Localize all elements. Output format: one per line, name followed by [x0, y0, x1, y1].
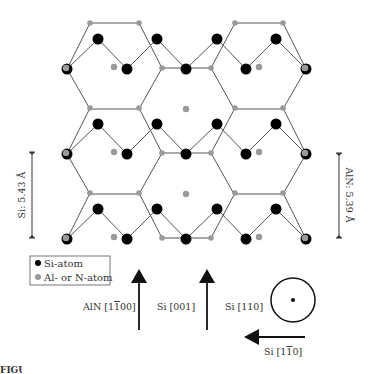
al-n-atom [232, 105, 238, 111]
si-atom [271, 119, 282, 130]
al-n-atom [87, 20, 93, 26]
bond-line [276, 209, 306, 239]
al-n-atom [111, 234, 117, 240]
al-n-atom [256, 234, 262, 240]
si-dimension-label: Si: 5.43 Å [16, 171, 27, 218]
out-of-plane-direction-icon [271, 278, 315, 322]
al-n-atom [183, 106, 189, 112]
al-n-atom [302, 150, 309, 157]
lattice [62, 20, 312, 244]
bond-line [67, 193, 90, 239]
al-n-atom [111, 64, 117, 70]
al-n-atom [280, 105, 286, 111]
si-1-10-direction-arrow [244, 329, 305, 345]
al-n-atom [159, 235, 165, 241]
bond-line [139, 23, 162, 68]
al-n-atom [183, 191, 189, 197]
al-n-atom [302, 65, 309, 72]
bond-line [283, 193, 306, 239]
si-atom [241, 149, 252, 160]
si-atom [93, 204, 104, 215]
si-110-label: Si [110] [225, 301, 263, 312]
bond-line [67, 124, 98, 154]
bond-line [283, 154, 306, 194]
si-atom [212, 204, 223, 215]
bond-line [67, 154, 90, 194]
bond-line [127, 124, 157, 154]
al-n-atom [280, 190, 286, 196]
si-atom [212, 34, 223, 45]
bond-line [67, 69, 90, 109]
al-n-atom [302, 235, 309, 242]
bond-line [217, 124, 246, 154]
si-atom [181, 149, 192, 160]
al-n-atom [232, 190, 238, 196]
bond-line [211, 153, 234, 194]
al-n-atom [208, 235, 214, 241]
si-atom [93, 119, 104, 130]
bond-line [217, 209, 246, 239]
al-n-atom [111, 149, 117, 155]
si-atom [122, 234, 133, 245]
aln-lattice-dimension: AlN: 5.39 Å [336, 153, 355, 238]
si-atom [122, 64, 133, 75]
legend-al-n-label: Al- or N-atom [43, 272, 113, 283]
al-n-atom [232, 20, 238, 26]
si-atom [181, 64, 192, 75]
bond-line [139, 108, 162, 153]
si-001-direction-arrow [199, 269, 215, 330]
si-atom [152, 119, 163, 130]
bond-line [157, 124, 186, 154]
bond-line [127, 39, 157, 69]
si-atom [152, 34, 163, 45]
bond-line [139, 153, 162, 194]
bond-line [246, 209, 276, 239]
bond-line [157, 39, 186, 69]
bond-line [246, 124, 276, 154]
al-n-atom [63, 65, 70, 72]
bond-line [157, 209, 186, 239]
aln-direction-arrow [131, 269, 147, 330]
si-1-10-label: Si [110] [264, 346, 302, 357]
bond-line [217, 39, 246, 69]
si-atom [122, 149, 133, 160]
al-n-atom [159, 65, 165, 71]
bond-line [127, 209, 157, 239]
si-atom [241, 234, 252, 245]
figure-caption-fragment: FIGURE 5.16 [0, 365, 66, 374]
si-atom [212, 119, 223, 130]
al-n-atom [159, 150, 165, 156]
bond-line [211, 108, 235, 153]
crystal-structure-diagram: Si-atom Al- or N-atom Si: 5.43 Å AlN: 5.… [0, 0, 374, 374]
si-atom-legend-icon [35, 260, 41, 266]
al-n-atom [136, 20, 142, 26]
si-atom [271, 34, 282, 45]
al-n-atom [63, 235, 70, 242]
legend-si-label: Si-atom [44, 258, 83, 269]
bond-line [139, 68, 162, 109]
al-n-atom [87, 190, 93, 196]
aln-direction-label: AlN [1100] [82, 301, 136, 312]
al-n-atom [136, 105, 142, 111]
bond-line [276, 39, 306, 69]
al-n-atom [63, 150, 70, 157]
al-n-atom [256, 149, 262, 155]
aln-dimension-label: AlN: 5.39 Å [344, 166, 355, 222]
bond-line [67, 39, 98, 69]
si-atom [271, 204, 282, 215]
bond-line [211, 68, 234, 109]
si-atom [181, 234, 192, 245]
bond-line [283, 69, 306, 109]
bond-line [283, 23, 306, 69]
bond-line [67, 108, 90, 154]
al-n-atom [208, 150, 214, 156]
si-atom [93, 34, 104, 45]
legend: Si-atom Al- or N-atom [30, 256, 113, 285]
bond-line [276, 124, 306, 154]
al-n-atom [87, 105, 93, 111]
bond-line [246, 39, 276, 69]
bond-line [283, 108, 306, 154]
al-n-atom-legend-icon [35, 274, 41, 280]
si-lattice-dimension: Si: 5.43 Å [16, 152, 35, 238]
al-n-atom [208, 65, 214, 71]
